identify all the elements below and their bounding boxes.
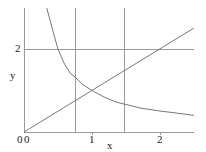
x-tick-label-1: 1 bbox=[89, 134, 95, 145]
y-tick-label-2: 2 bbox=[15, 43, 21, 54]
series-line-y-equals-x bbox=[24, 28, 194, 132]
origin-label-y: 0 bbox=[24, 134, 30, 145]
x-axis-label: x bbox=[107, 140, 113, 151]
origin-label-x: 0 bbox=[17, 134, 23, 145]
series-curve-y-equals-1-over-x bbox=[47, 8, 194, 115]
chart-plot bbox=[0, 0, 206, 152]
x-tick-label-2: 2 bbox=[157, 134, 163, 145]
y-axis-label: y bbox=[10, 70, 16, 81]
